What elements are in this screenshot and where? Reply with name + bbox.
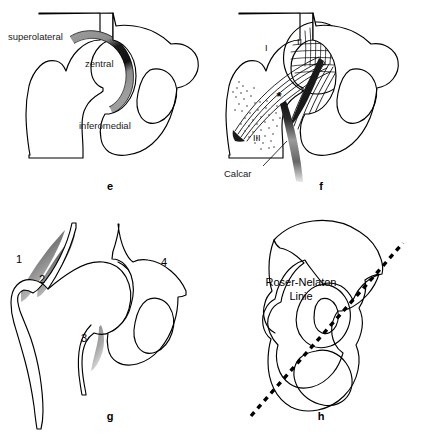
- panel-letter-g: g: [107, 410, 114, 422]
- label-region-1: 1: [16, 253, 22, 265]
- label-group-iii: III: [253, 133, 261, 143]
- label-region-4: 4: [161, 256, 167, 268]
- label-superolateral: superolateral: [8, 31, 63, 42]
- pelvis-outline-e: [100, 13, 198, 155]
- label-calcar: Calcar: [224, 168, 251, 179]
- figure-root: superolateral zentral inferomedial e: [0, 0, 422, 440]
- label-group-i: I: [265, 43, 268, 53]
- label-roser-nelaton-line2: Linie: [289, 290, 312, 302]
- pelvis-outline-g: [107, 224, 186, 365]
- label-region-2: 2: [39, 273, 45, 285]
- panel-letter-f: f: [319, 180, 323, 192]
- panel-letter-e: e: [107, 180, 113, 192]
- label-region-3: 3: [81, 332, 87, 344]
- panel-h: Roser-Nelaton Linie h: [211, 215, 422, 440]
- label-inferomedial: inferomedial: [79, 120, 131, 131]
- label-roser-nelaton-line1: Roser-Nelaton: [266, 276, 337, 288]
- pelvis-outline-f: [300, 13, 398, 155]
- panel-letter-h: h: [318, 410, 325, 422]
- panel-f: I II III * Calcar f: [211, 0, 422, 210]
- label-group-ii: II: [297, 37, 302, 47]
- panel-e: superolateral zentral inferomedial e: [0, 0, 211, 210]
- label-zentral: zentral: [85, 58, 114, 69]
- shaded-region-3: [91, 325, 104, 371]
- panel-g: 1 2 3 4 g: [0, 215, 211, 440]
